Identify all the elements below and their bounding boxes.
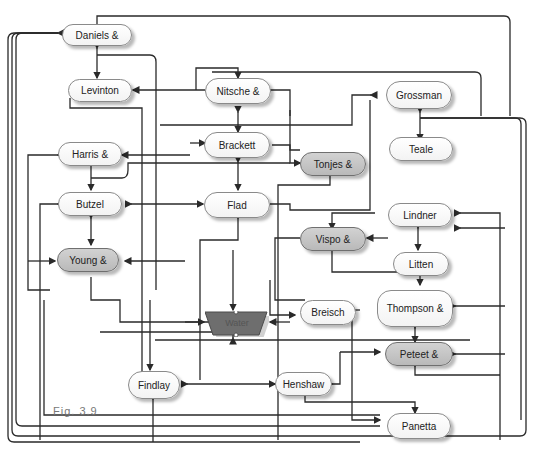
- node-brackett[interactable]: Brackett: [204, 132, 270, 158]
- node-harris[interactable]: Harris &: [58, 142, 122, 166]
- connector-lines: [0, 0, 533, 453]
- node-tonjes[interactable]: Tonjes &: [300, 152, 366, 176]
- node-lindner[interactable]: Lindner: [388, 203, 452, 227]
- figure-caption: Fig. 3.9: [53, 405, 98, 417]
- node-peteet[interactable]: Peteet &: [385, 342, 453, 366]
- node-litten[interactable]: Litten: [393, 252, 449, 276]
- node-butzel[interactable]: Butzel: [58, 192, 122, 216]
- node-grossman[interactable]: Grossman: [386, 81, 452, 109]
- node-levinton[interactable]: Levinton: [68, 79, 132, 102]
- node-nitsche[interactable]: Nitsche &: [205, 78, 271, 104]
- node-daniels[interactable]: Daniels &: [62, 24, 132, 46]
- node-henshaw[interactable]: Henshaw: [275, 372, 332, 396]
- node-thompson[interactable]: Thompson &: [377, 290, 453, 327]
- node-teale[interactable]: Teale: [389, 137, 453, 161]
- node-findlay[interactable]: Findlay: [128, 371, 180, 399]
- node-water[interactable]: Water: [205, 311, 269, 337]
- node-vispo[interactable]: Vispo &: [300, 227, 366, 251]
- node-young[interactable]: Young &: [57, 248, 119, 272]
- node-panetta[interactable]: Panetta: [387, 413, 451, 439]
- node-breisch[interactable]: Breisch: [300, 300, 356, 325]
- node-flad[interactable]: Flad: [204, 192, 270, 218]
